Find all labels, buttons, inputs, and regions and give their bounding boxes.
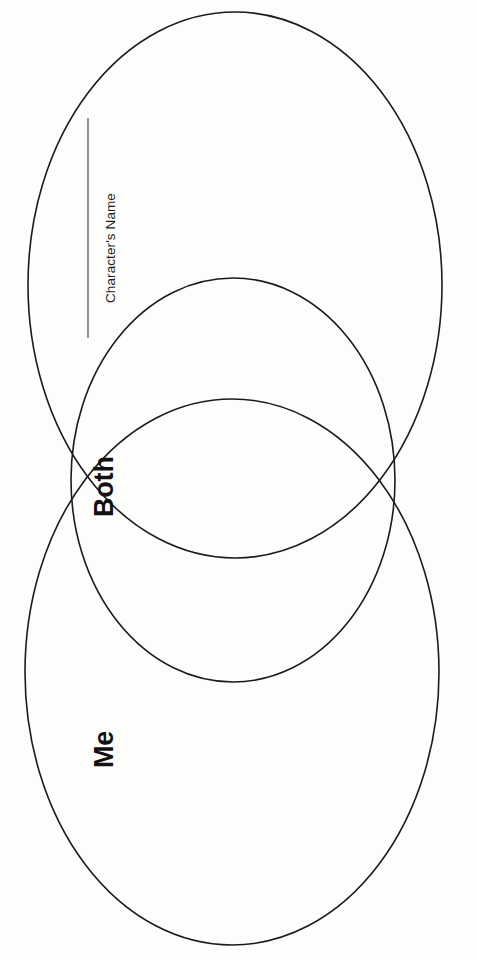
venn-circle-both[interactable] (71, 278, 395, 682)
venn-circle-me[interactable] (25, 399, 439, 945)
worksheet-page: Character's Name Both Me (0, 0, 477, 960)
venn-diagram-canvas (0, 0, 477, 960)
me-label: Me (91, 731, 118, 768)
character-name-label: Character's Name (104, 193, 118, 303)
both-label: Both (91, 456, 118, 517)
